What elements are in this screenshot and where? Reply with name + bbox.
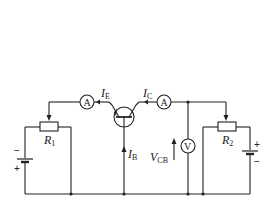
battery-1: − + xyxy=(14,145,33,174)
battery1-positive-sign: + xyxy=(14,163,20,174)
ie-label: IE xyxy=(100,86,110,101)
battery1-negative-sign: − xyxy=(14,145,20,156)
svg-text:V: V xyxy=(184,141,192,152)
left-loop: − + R1 xyxy=(14,102,80,194)
r1-slider-arrow-icon xyxy=(47,115,52,121)
emitter-ammeter: A IE xyxy=(80,86,110,109)
ic-label: IC xyxy=(142,86,152,101)
r2-slider-arrow-icon xyxy=(224,115,229,121)
battery2-negative-sign: − xyxy=(254,156,260,167)
circuit-diagram: − + R1 A IE IB IC A xyxy=(0,0,274,210)
r2-label: R2 xyxy=(221,133,233,148)
vcb-label: VCB xyxy=(150,150,168,165)
battery-2: + − xyxy=(242,139,260,167)
ib-arrow-icon xyxy=(122,146,127,152)
resistor-r1 xyxy=(40,122,58,131)
ib-label: IB xyxy=(127,147,137,162)
ie-arrow-icon xyxy=(96,100,100,105)
transistor: IB xyxy=(109,102,139,194)
voltmeter: V VCB xyxy=(150,102,195,194)
collector-ammeter: IC A xyxy=(139,86,226,109)
svg-text:A: A xyxy=(84,97,92,108)
right-loop: R2 + − xyxy=(203,102,260,194)
vcb-arrow-icon xyxy=(172,138,177,144)
resistor-r2 xyxy=(218,122,236,131)
r1-label: R1 xyxy=(43,133,55,148)
svg-text:A: A xyxy=(161,97,169,108)
battery2-positive-sign: + xyxy=(254,139,260,150)
